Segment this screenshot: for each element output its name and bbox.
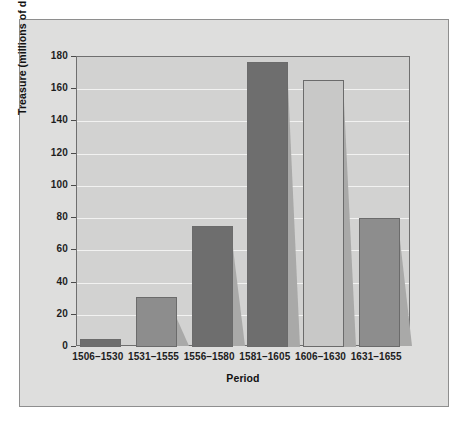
y-tick-label: 60	[30, 244, 68, 254]
bar-shadow	[121, 339, 133, 347]
bar[interactable]	[303, 80, 344, 347]
chart-figure-frame: Treasure (millions of ducats) 0204060801…	[19, 19, 449, 407]
y-axis-title: Treasure (millions of ducats)	[16, 0, 28, 115]
y-tick-label: 120	[30, 148, 68, 158]
bar[interactable]	[80, 339, 121, 347]
x-axis-title: Period	[76, 372, 410, 384]
y-tick-label: 160	[30, 83, 68, 93]
gridline	[77, 154, 409, 155]
gridline	[77, 186, 409, 187]
bar[interactable]	[136, 297, 177, 347]
bar-shadow	[400, 218, 412, 346]
y-tick-mark	[71, 346, 76, 347]
x-tick-label: 1631–1655	[348, 351, 404, 362]
x-tick-label: 1531–1555	[126, 351, 182, 362]
x-tick-label: 1606–1630	[293, 351, 349, 362]
y-tick-label: 80	[30, 212, 68, 222]
y-tick-label: 20	[30, 309, 68, 319]
x-tick-label: 1556–1580	[181, 351, 237, 362]
y-tick-label: 40	[30, 277, 68, 287]
bar[interactable]	[192, 226, 233, 347]
y-tick-label: 140	[30, 115, 68, 125]
y-tick-label: 0	[30, 341, 68, 351]
gridline	[77, 121, 409, 122]
bar-shadow	[177, 297, 189, 346]
bar[interactable]	[247, 62, 288, 347]
figure-root: Treasure (millions of ducats) 0204060801…	[0, 0, 467, 428]
bar[interactable]	[359, 218, 400, 347]
bar-shadow	[288, 62, 300, 347]
gridline	[77, 89, 409, 90]
bar-shadow	[344, 80, 356, 347]
plot-region	[76, 56, 410, 346]
y-tick-label: 180	[30, 51, 68, 61]
y-tick-label: 100	[30, 180, 68, 190]
bar-chart: Treasure (millions of ducats) 0204060801…	[20, 20, 450, 408]
x-tick-label: 1506–1530	[70, 351, 126, 362]
bar-shadow	[233, 226, 245, 346]
x-tick-label: 1581–1605	[237, 351, 293, 362]
